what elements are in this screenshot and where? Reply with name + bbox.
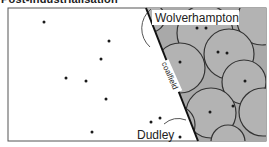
wolverhampton-text: Wolverhampton bbox=[155, 11, 239, 25]
wolverhampton-label: Wolverhampton bbox=[152, 10, 239, 25]
dudley-text: Dudley bbox=[137, 128, 174, 142]
settlement-diagram: Wolverhampton coalfield Dudley bbox=[0, 0, 269, 147]
